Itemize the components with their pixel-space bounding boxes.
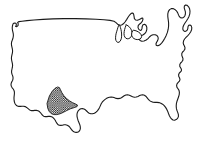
country-outline-group <box>11 5 192 132</box>
us-map-svg <box>0 0 203 145</box>
contiguous-us-outline <box>11 5 192 132</box>
us-outline-map-figure <box>0 0 203 145</box>
